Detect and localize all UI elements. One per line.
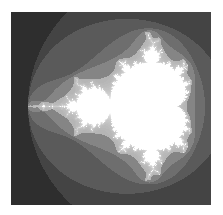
fractal-canvas [11,12,211,205]
mandelbrot-image [11,12,211,205]
